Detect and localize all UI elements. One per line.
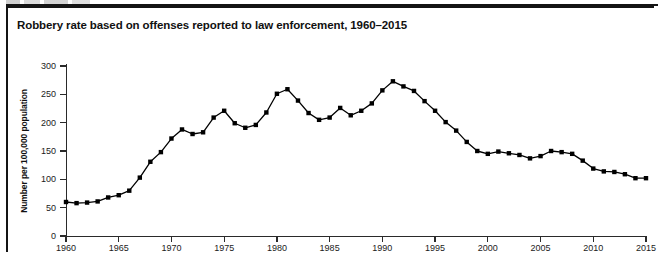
data-point-marker bbox=[296, 98, 300, 102]
data-point-marker bbox=[433, 109, 437, 113]
data-point-marker bbox=[85, 200, 89, 204]
data-point-marker bbox=[475, 149, 479, 153]
data-point-marker bbox=[201, 130, 205, 134]
chart-series-layer bbox=[0, 0, 660, 257]
data-point-marker bbox=[623, 172, 627, 176]
data-point-marker bbox=[64, 200, 68, 204]
data-point-marker bbox=[148, 160, 152, 164]
data-point-marker bbox=[570, 152, 574, 156]
data-point-marker bbox=[317, 118, 321, 122]
data-point-marker bbox=[306, 111, 310, 115]
data-point-marker bbox=[127, 188, 131, 192]
data-point-marker bbox=[117, 193, 121, 197]
robbery-rate-markers bbox=[64, 79, 648, 205]
data-point-marker bbox=[391, 79, 395, 83]
data-point-marker bbox=[633, 176, 637, 180]
data-point-marker bbox=[528, 156, 532, 160]
data-point-marker bbox=[443, 120, 447, 124]
data-point-marker bbox=[190, 132, 194, 136]
data-point-marker bbox=[412, 89, 416, 93]
data-point-marker bbox=[222, 109, 226, 113]
data-point-marker bbox=[159, 150, 163, 154]
data-point-marker bbox=[359, 109, 363, 113]
data-point-marker bbox=[380, 88, 384, 92]
data-point-marker bbox=[612, 170, 616, 174]
data-point-marker bbox=[264, 110, 268, 114]
data-point-marker bbox=[465, 140, 469, 144]
data-point-marker bbox=[254, 123, 258, 127]
data-point-marker bbox=[581, 158, 585, 162]
data-point-marker bbox=[538, 154, 542, 158]
data-point-marker bbox=[106, 195, 110, 199]
data-point-marker bbox=[275, 92, 279, 96]
data-point-marker bbox=[517, 153, 521, 157]
figure-page: Robbery rate based on offenses reported … bbox=[0, 0, 660, 257]
data-point-marker bbox=[559, 150, 563, 154]
data-point-marker bbox=[486, 152, 490, 156]
data-point-marker bbox=[602, 169, 606, 173]
data-point-marker bbox=[349, 113, 353, 117]
data-point-marker bbox=[507, 151, 511, 155]
robbery-rate-line bbox=[66, 81, 646, 203]
data-point-marker bbox=[496, 149, 500, 153]
data-point-marker bbox=[233, 121, 237, 125]
data-point-marker bbox=[644, 176, 648, 180]
data-point-marker bbox=[74, 201, 78, 205]
data-point-marker bbox=[454, 128, 458, 132]
data-point-marker bbox=[285, 87, 289, 91]
data-point-marker bbox=[591, 166, 595, 170]
data-point-marker bbox=[422, 99, 426, 103]
data-point-marker bbox=[95, 199, 99, 203]
data-point-marker bbox=[401, 84, 405, 88]
data-point-marker bbox=[327, 115, 331, 119]
data-point-marker bbox=[338, 106, 342, 110]
data-point-marker bbox=[370, 101, 374, 105]
data-point-marker bbox=[211, 115, 215, 119]
data-point-marker bbox=[549, 149, 553, 153]
data-point-marker bbox=[180, 127, 184, 131]
data-point-marker bbox=[138, 175, 142, 179]
data-point-marker bbox=[243, 126, 247, 130]
data-point-marker bbox=[169, 136, 173, 140]
